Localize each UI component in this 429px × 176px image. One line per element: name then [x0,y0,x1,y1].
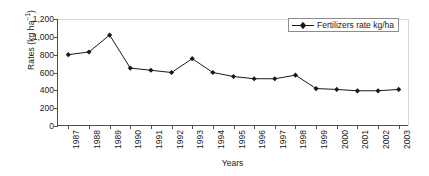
data-point-marker [128,65,133,70]
x-axis-tick-label: 1996 [257,130,267,149]
data-point-marker [169,70,174,75]
x-axis-tick-label: 1990 [133,130,143,149]
data-point-marker [231,74,236,79]
y-axis-tick-label: 800 [18,50,54,60]
data-point-marker [148,68,153,73]
data-point-marker [313,86,318,91]
x-axis-tick-mark [172,125,173,129]
x-axis-tick-label: 1998 [298,130,308,149]
y-axis-tick-label: 600 [18,68,54,78]
x-axis-tick-mark [316,125,317,129]
series-line-fertilizers-rate-kg-ha [68,35,398,91]
legend-label-fertilizers-rate: Fertilizers rate kg/ha [317,20,394,30]
y-axis-tick-label: 200 [18,103,54,113]
y-axis-tick-mark [54,73,58,74]
x-axis-tick-mark [213,125,214,129]
x-axis-tick-label: 1987 [71,130,81,149]
x-axis-tick-mark [234,125,235,129]
x-axis-tick-label: 1989 [113,130,123,149]
y-axis-tick-mark [54,108,58,109]
x-axis-tick-label: 1995 [237,130,247,149]
y-axis-tick-mark [54,90,58,91]
y-axis-tick-label: 1,200 [18,14,54,24]
x-axis-tick-mark [275,125,276,129]
data-point-marker [396,87,401,92]
x-axis-tick-label: 1993 [195,130,205,149]
data-point-marker [210,70,215,75]
x-axis-tick-label: 1997 [278,130,288,149]
y-axis-tick-label: 400 [18,85,54,95]
data-point-marker [272,76,277,81]
x-axis-tick-mark [130,125,131,129]
x-axis-tick-label: 1999 [319,130,329,149]
x-axis-tick-mark [337,125,338,129]
x-axis-tick-mark [378,125,379,129]
data-point-marker [375,88,380,93]
x-axis-tick-mark [192,125,193,129]
y-axis-tick-label: 0 [18,121,54,131]
data-point-marker [293,73,298,78]
data-point-marker [66,52,71,57]
x-axis-tick-label: 1988 [92,130,102,149]
x-axis-tick-label: 2000 [340,130,350,149]
x-axis-tick-mark [357,125,358,129]
x-axis-tick-mark [254,125,255,129]
fertilizer-rate-line-chart: Rates (kg ha−1) 02004006008001,0001,200 … [0,0,429,176]
y-axis-tick-mark [54,55,58,56]
legend-marker-icon [292,21,314,30]
x-axis-tick-label: 2003 [402,130,412,149]
y-axis-tick-mark [54,126,58,127]
y-axis-tick-labels: 02004006008001,0001,200 [18,0,54,176]
data-point-marker [334,87,339,92]
data-point-marker [355,88,360,93]
x-axis-tick-mark [68,125,69,129]
x-axis-tick-label: 1991 [154,130,164,149]
data-point-marker [252,76,257,81]
y-axis-tick-mark [54,19,58,20]
y-axis-tick-mark [54,37,58,38]
plot-area [57,19,408,126]
x-axis-tick-label: 1994 [216,130,226,149]
x-axis-tick-mark [399,125,400,129]
x-axis-title: Years [57,158,408,168]
chart-legend: Fertilizers rate kg/ha [288,18,399,32]
series-layer [58,19,409,126]
x-axis-tick-mark [89,125,90,129]
x-axis-tick-label: 2002 [381,130,391,149]
x-axis-tick-mark [151,125,152,129]
y-axis-tick-label: 1,000 [18,32,54,42]
x-axis-tick-mark [110,125,111,129]
x-axis-tick-mark [295,125,296,129]
x-axis-tick-label: 1992 [175,130,185,149]
x-axis-tick-label: 2001 [360,130,370,149]
